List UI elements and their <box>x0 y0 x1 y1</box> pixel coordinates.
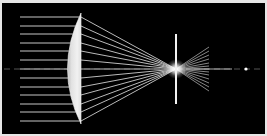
figure-frame <box>0 0 267 136</box>
distant-point-source <box>244 67 247 70</box>
screenshot-root <box>0 0 267 136</box>
optical-ray-diagram <box>0 0 267 136</box>
